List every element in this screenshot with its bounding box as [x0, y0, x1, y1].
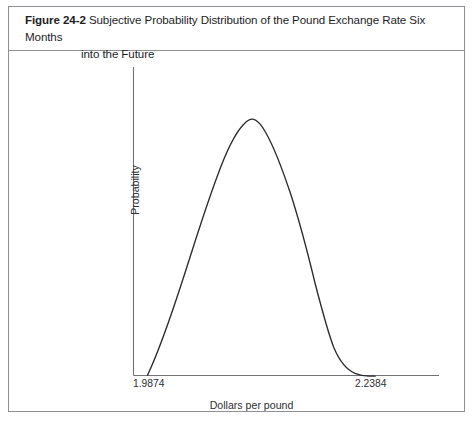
x-axis-title-text: Dollars per pound: [182, 399, 294, 411]
y-axis-title: Probability: [129, 130, 141, 250]
figure-number: Figure 24-2: [25, 13, 86, 26]
probability-density-curve: [148, 119, 376, 376]
plot-area: 1.9874 2.2384 Dollars per pound Probabil…: [9, 51, 464, 411]
x-axis-title: Dollars per pound: [9, 399, 466, 411]
figure-header: Figure 24-2 Subjective Probability Distr…: [9, 7, 464, 51]
distribution-plot: [9, 51, 466, 413]
x-tick-label-min: 1.9874: [133, 378, 165, 389]
x-tick-label-max: 2.2384: [355, 378, 387, 389]
figure-caption-line1: Subjective Probability Distribution of t…: [25, 13, 425, 43]
figure-panel: Figure 24-2 Subjective Probability Distr…: [8, 6, 465, 412]
